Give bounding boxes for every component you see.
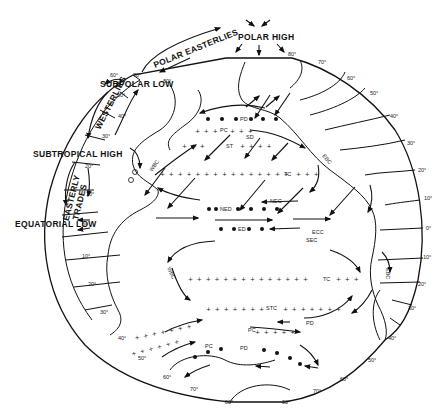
lat-label: 10° [86, 191, 94, 197]
lat-label: 80° [282, 399, 290, 405]
tc-south-label: TC [323, 276, 330, 282]
lat-label: 10° [423, 254, 431, 260]
tc-label: TC [284, 171, 291, 177]
svg-text:+ + +: + + + [182, 142, 205, 149]
ocean-circulation-diagram: 80° 70° 60° 50° 40° 30° 20° 10° 0° 10° 2… [0, 0, 447, 414]
polar-high-label: POLAR HIGH [238, 32, 294, 42]
lat-label: 0° [426, 225, 431, 231]
tropical-convergence-north: + + + + + + + + + + + + + + + TC + + + [160, 170, 319, 177]
lat-label: 30° [102, 133, 110, 139]
wbc-north-label: WBC [148, 159, 160, 173]
lat-label: 20° [88, 281, 96, 287]
tropical-convergence-south: + + + + + + + + + + + + + + TC + + + [188, 275, 359, 282]
lat-label: 50° [370, 90, 378, 96]
svg-text:+ + +: + + + [336, 275, 359, 282]
wind-belts: POLAR HIGH POLAR EASTERLIES SUBPOLAR LOW… [15, 20, 294, 230]
ecc-label: ECC [312, 229, 324, 235]
lat-label: 10° [82, 253, 90, 259]
ned-label: NED [220, 206, 232, 212]
lat-label: 30° [100, 309, 108, 315]
sec-label: SEC [306, 237, 317, 243]
high-pressure-marker [129, 178, 134, 183]
sd-label: SD [246, 134, 254, 140]
lat-label: 30° [407, 140, 415, 146]
subtropical-high-label: SUBTROPICAL HIGH [33, 149, 123, 159]
ed-label: ED [238, 226, 246, 232]
pc-label: PC [220, 127, 228, 133]
lat-label: 70° [313, 388, 321, 394]
st-label: ST [226, 143, 234, 149]
polar-convergence-south: + + + + + + + + + + + + + PC PC + + + + … [130, 322, 295, 357]
lat-label: 80° [225, 399, 233, 405]
latitude-lines-right [290, 60, 423, 325]
pc-south-label-west: PC [205, 343, 213, 349]
svg-text:+ + +: + + + [230, 127, 253, 134]
lat-label: 20° [418, 281, 426, 287]
pd-south-label: PD [240, 345, 248, 351]
lat-label: 20° [418, 167, 426, 173]
stc-label: STC [266, 305, 277, 311]
polar-convergence-north: + + + PC + + + [195, 127, 253, 134]
lat-label: 10° [424, 195, 432, 201]
lat-label: 60° [340, 376, 348, 382]
lat-label: 70° [133, 72, 141, 78]
lat-label: 80° [288, 51, 296, 57]
subtropical-convergence-south: + + + + + + + STC + + + + + + + [206, 305, 341, 312]
pd-east-label: PD [306, 320, 314, 326]
diagram-canvas: 80° 70° 60° 50° 40° 30° 20° 10° 0° 10° 2… [0, 0, 447, 414]
svg-text:+ + + + + + +: + + + + + + + [283, 305, 341, 312]
equatorial-divergence: ED [219, 226, 264, 232]
svg-text:+ + +: + + + [296, 170, 319, 177]
lat-label: 20° [85, 163, 93, 169]
lat-label: 60° [163, 374, 171, 380]
lat-label: 70° [190, 386, 198, 392]
svg-text:+ + +: + + + [195, 127, 218, 134]
polar-divergence-north: PD [206, 116, 278, 122]
lat-label: 60° [347, 75, 355, 81]
svg-text:+ + + + + + +: + + + + + + + [206, 305, 264, 312]
svg-text:+ + + + + + + + + +: + + + + + + + + + + + + + + [188, 275, 308, 282]
lat-label: 40° [390, 113, 398, 119]
svg-text:+ + + + + + + + + +: + + + + + + + + + + + + + + + [160, 170, 289, 177]
lat-label: 50° [368, 357, 376, 363]
lat-label: 40° [118, 335, 126, 341]
pd-label: PD [240, 116, 248, 122]
lat-label: 40° [388, 335, 396, 341]
lat-label: 50° [138, 355, 146, 361]
lat-label: 30° [408, 305, 416, 311]
lat-label: 70° [318, 59, 326, 65]
